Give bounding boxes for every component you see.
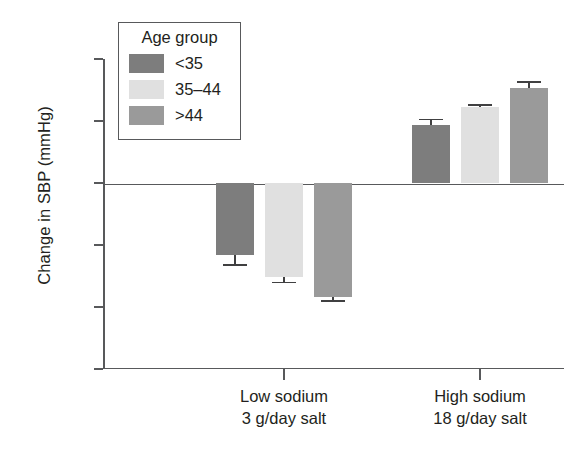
x-group-label-line2: 18 g/day salt [375,408,584,430]
error-bar [314,297,352,302]
legend-row: <35 [119,50,240,76]
bar [412,125,450,183]
error-bar [461,104,499,108]
legend-row: >44 [119,102,240,128]
x-axis-line [103,368,564,370]
y-tick [94,182,103,184]
bar-fill [314,183,352,297]
chart-figure: Change in SBP (mmHg) 1050–5–10–15 Low so… [0,0,584,456]
legend-label: <35 [175,54,203,73]
y-tick [94,244,103,246]
y-tick [94,120,103,122]
bar [461,107,499,183]
x-tick [283,369,285,380]
bar-fill [412,125,450,183]
error-bar [216,255,254,266]
x-group-label-line1: Low sodium [179,386,389,408]
bar [265,183,303,277]
bar-fill [265,183,303,277]
y-axis-line [103,59,105,369]
legend-row: 35–44 [119,76,240,102]
bar-fill [461,107,499,183]
bar-fill [216,183,254,255]
error-bar [265,277,303,283]
legend-swatch [129,80,164,99]
y-tick [94,368,103,370]
x-group-label-line2: 3 g/day salt [179,408,389,430]
bar [216,183,254,255]
bar [510,88,548,183]
y-tick [94,306,103,308]
error-bar-cap [321,300,345,302]
legend-items: <3535–44>44 [119,50,240,128]
y-tick [94,58,103,60]
bar [314,183,352,297]
error-bar-cap [223,264,247,266]
legend-swatch [129,106,164,125]
error-bar-cap [272,282,296,284]
x-group-label: High sodium18 g/day salt [375,386,584,430]
error-bar-cap [517,81,541,83]
legend-label: 35–44 [175,80,221,99]
error-bar-cap [419,119,443,121]
x-group-label: Low sodium3 g/day salt [179,386,389,430]
x-group-label-line1: High sodium [375,386,584,408]
legend-title: Age group [119,28,240,47]
legend-swatch [129,54,164,73]
error-bar [412,119,450,125]
legend-label: >44 [175,106,203,125]
error-bar [510,81,548,87]
legend: Age group <3535–44>44 [118,22,241,140]
y-axis-title: Change in SBP (mmHg) [35,56,54,336]
error-bar-cap [468,104,492,106]
x-tick [479,369,481,380]
bar-fill [510,88,548,183]
